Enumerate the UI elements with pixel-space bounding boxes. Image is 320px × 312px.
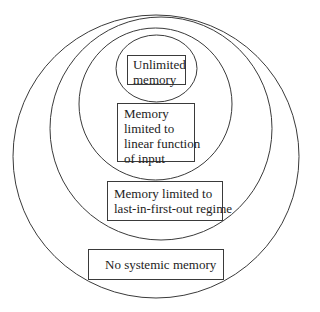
label-line: last-in-first-out regime	[114, 201, 222, 216]
label-no-systemic-memory: No systemic memory	[88, 249, 224, 280]
label-line: memory	[133, 72, 185, 87]
label-line: Memory	[124, 106, 194, 121]
label-line: No systemic memory	[105, 257, 223, 272]
label-line: Unlimited	[133, 57, 185, 72]
label-line: limited to	[124, 121, 194, 136]
label-line: of input	[124, 151, 194, 166]
label-lifo-memory: Memory limited to last-in-first-out regi…	[107, 181, 223, 221]
label-line: Memory limited to	[114, 186, 222, 201]
label-unlimited-memory: Unlimited memory	[127, 55, 186, 85]
label-line: linear function	[124, 136, 194, 151]
label-linear-memory: Memory limited to linear function of inp…	[117, 103, 195, 162]
